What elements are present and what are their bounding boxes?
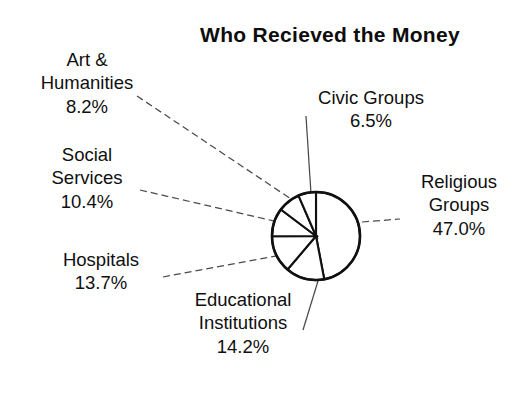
leader-line-religious: [362, 219, 400, 222]
slice-label-religious-groups: Religious Groups 47.0%: [398, 170, 520, 240]
leader-line-hospitals: [163, 253, 292, 277]
slice-value-religious-groups: 47.0%: [398, 217, 520, 240]
slice-label-art-humanities-line2: Humanities: [14, 71, 160, 94]
slice-label-social-services: Social Services 10.4%: [14, 143, 160, 213]
slice-label-civic-groups: Civic Groups 6.5%: [300, 86, 442, 133]
slice-label-hospitals-line1: Hospitals: [28, 248, 174, 271]
slice-value-hospitals: 13.7%: [28, 271, 174, 294]
slice-value-social-services: 10.4%: [14, 190, 160, 213]
leader-line-art-humanities: [137, 96, 300, 205]
slice-label-social-services-line2: Services: [14, 166, 160, 189]
slice-label-educational-institutions-line1: Educational: [160, 288, 326, 311]
pie-chart-figure: Who Recieved the Money Art & Humanities …: [0, 0, 525, 398]
slice-label-art-humanities: Art & Humanities 8.2%: [14, 48, 160, 118]
slice-label-religious-groups-line2: Groups: [398, 193, 520, 216]
slice-value-educational-institutions: 14.2%: [160, 335, 326, 358]
slice-label-social-services-line1: Social: [14, 143, 160, 166]
slice-label-art-humanities-line1: Art &: [14, 48, 160, 71]
slice-value-art-humanities: 8.2%: [14, 95, 160, 118]
slice-label-educational-institutions: Educational Institutions 14.2%: [160, 288, 326, 358]
slice-label-educational-institutions-line2: Institutions: [160, 311, 326, 334]
slice-label-religious-groups-line1: Religious: [398, 170, 520, 193]
slice-value-civic-groups: 6.5%: [300, 109, 442, 132]
slice-label-hospitals: Hospitals 13.7%: [28, 248, 174, 295]
slice-label-civic-groups-line1: Civic Groups: [300, 86, 442, 109]
